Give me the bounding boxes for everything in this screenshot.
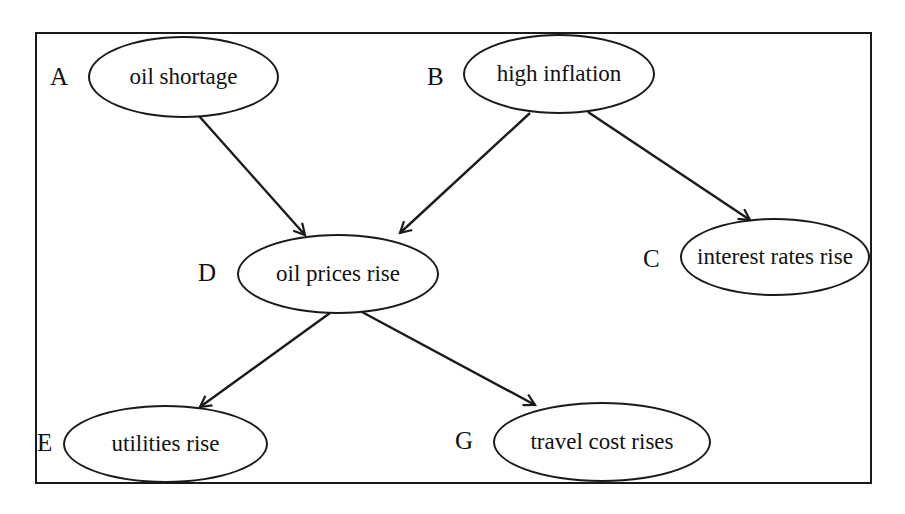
- node-c-letter: C: [643, 246, 660, 271]
- node-oil-prices-rise-label: oil prices rise: [276, 261, 400, 287]
- node-high-inflation-label: high inflation: [497, 61, 622, 87]
- node-interest-rates-rise: interest rates rise: [680, 218, 870, 296]
- node-utilities-rise-label: utilities rise: [112, 431, 220, 457]
- node-utilities-rise: utilities rise: [63, 405, 268, 483]
- node-g-letter: G: [455, 428, 473, 453]
- node-oil-shortage: oil shortage: [88, 36, 279, 118]
- node-e-letter: E: [37, 430, 52, 455]
- node-travel-cost-rises-label: travel cost rises: [530, 429, 673, 455]
- node-travel-cost-rises: travel cost rises: [493, 402, 711, 482]
- node-oil-prices-rise: oil prices rise: [237, 234, 439, 314]
- node-d-letter: D: [198, 260, 216, 285]
- node-interest-rates-rise-label: interest rates rise: [697, 244, 853, 270]
- node-b-letter: B: [427, 64, 444, 89]
- node-oil-shortage-label: oil shortage: [130, 64, 238, 90]
- diagram-canvas: A oil shortage B high inflation C intere…: [0, 0, 905, 514]
- node-high-inflation: high inflation: [463, 34, 655, 114]
- node-a-letter: A: [50, 64, 68, 89]
